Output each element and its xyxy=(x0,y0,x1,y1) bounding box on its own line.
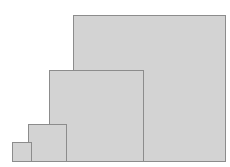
square-small xyxy=(28,124,67,162)
square-tiny xyxy=(12,142,32,162)
